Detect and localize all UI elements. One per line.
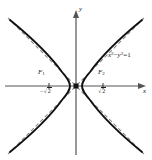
focus-left-subscript: 1 xyxy=(42,71,45,76)
radicand-right: 2 xyxy=(101,87,106,94)
focus-left-label: F1 xyxy=(38,69,45,76)
tick-label-negative-sqrt2: −√2 xyxy=(40,88,52,94)
equation-label: x2−y2=1 xyxy=(108,51,131,59)
x-axis-label: x xyxy=(143,88,146,95)
radicand-left: 2 xyxy=(47,87,52,94)
tick-label-sqrt2: √2 xyxy=(98,88,106,94)
origin-marker xyxy=(74,84,79,89)
focus-right-subscript: 2 xyxy=(102,71,105,76)
focus-right-label: F2 xyxy=(98,69,105,76)
y-axis-label: y xyxy=(79,6,82,13)
hyperbola-figure: y x F1 F2 −√2 √2 x2−y2=1 xyxy=(0,0,152,160)
equation-rhs: 1 xyxy=(127,51,131,59)
graph-canvas xyxy=(0,0,152,160)
